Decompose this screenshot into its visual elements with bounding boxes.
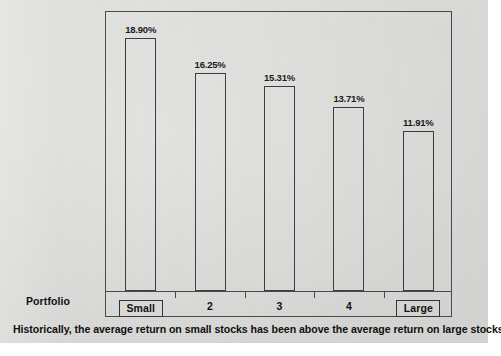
x-axis-strip: Small234Large: [106, 291, 451, 316]
bar-value-label: 11.91%: [388, 117, 448, 128]
bar-value-label: 16.25%: [180, 59, 240, 70]
figure-root: Portfolio 18.90%16.25%15.31%13.71%11.91%…: [0, 0, 501, 356]
x-axis-tick: [245, 291, 246, 298]
bar-value-label: 18.90%: [111, 24, 171, 35]
x-axis-tick: [314, 291, 315, 298]
plot-frame: 18.90%16.25%15.31%13.71%11.91% Small234L…: [105, 11, 452, 317]
x-axis-category-label: Large: [396, 300, 440, 317]
figure-caption: Historically, the average return on smal…: [13, 323, 483, 335]
x-axis-category-label: 3: [265, 300, 295, 312]
bar: [125, 38, 156, 292]
bar-value-label: 15.31%: [250, 72, 310, 83]
bar: [264, 86, 295, 291]
x-axis-category-label: 2: [195, 300, 225, 312]
bar-value-label: 13.71%: [319, 93, 379, 104]
x-axis-tick: [384, 291, 385, 298]
axis-row-label-portfolio: Portfolio: [26, 295, 70, 307]
bar: [195, 73, 226, 291]
bar: [333, 107, 364, 291]
x-axis-category-label: 4: [334, 300, 364, 312]
x-axis-category-label: Small: [119, 300, 163, 317]
bar: [403, 131, 434, 291]
plot-area: 18.90%16.25%15.31%13.71%11.91%: [106, 12, 451, 291]
x-axis-tick: [175, 291, 176, 298]
